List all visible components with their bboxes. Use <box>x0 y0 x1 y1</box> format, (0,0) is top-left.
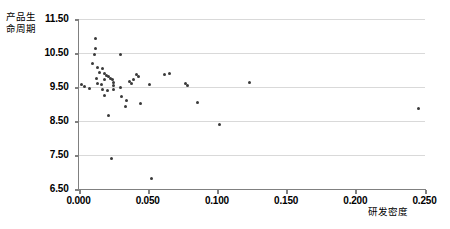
data-point <box>94 47 97 50</box>
y-tick-label: 9.50 <box>33 81 69 92</box>
data-point <box>106 89 109 92</box>
data-point <box>124 105 127 108</box>
y-tick-label: 6.50 <box>33 183 69 194</box>
y-tick-mark <box>75 121 79 123</box>
data-point <box>119 53 122 56</box>
y-axis-title-line-2: 命周期 <box>6 23 66 35</box>
data-point <box>103 78 106 81</box>
data-point <box>98 71 101 74</box>
gridline-y <box>79 155 425 156</box>
x-tick-mark <box>286 190 288 194</box>
data-point <box>96 66 99 69</box>
data-point <box>248 81 251 84</box>
x-tick-mark <box>148 190 150 194</box>
y-tick-label: 8.50 <box>33 115 69 126</box>
y-tick-mark <box>75 155 79 157</box>
x-tick-mark <box>217 190 219 194</box>
data-point <box>130 82 133 85</box>
data-point <box>125 99 128 102</box>
x-tick-mark <box>355 190 357 194</box>
x-tick-label: 0.000 <box>56 195 102 206</box>
data-point <box>218 123 221 126</box>
y-tick-mark <box>75 19 79 21</box>
data-point <box>148 83 151 86</box>
data-point <box>103 94 106 97</box>
data-point <box>150 177 153 180</box>
data-point <box>110 157 113 160</box>
data-point <box>93 53 96 56</box>
data-point <box>137 75 140 78</box>
data-point <box>112 88 115 91</box>
data-point <box>196 101 199 104</box>
gridline-y <box>79 53 425 54</box>
x-tick-mark <box>79 190 81 194</box>
y-axis-line <box>78 19 80 190</box>
data-point <box>94 37 97 40</box>
y-tick-mark <box>75 87 79 89</box>
data-point <box>101 88 104 91</box>
data-point <box>417 107 420 110</box>
data-point <box>163 73 166 76</box>
data-point <box>119 86 122 89</box>
x-tick-label: 0.250 <box>402 195 448 206</box>
y-tick-label: 11.50 <box>33 13 69 24</box>
data-point <box>168 72 171 75</box>
x-axis-line <box>78 189 426 191</box>
gridline-y <box>79 121 425 122</box>
data-point <box>88 87 91 90</box>
scatter-chart: 产品生 命周期 研发密度 11.5010.509.508.507.506.500… <box>0 0 450 229</box>
x-axis-title: 研发密度 <box>368 206 408 218</box>
data-point <box>100 83 103 86</box>
x-tick-label: 0.100 <box>194 195 240 206</box>
gridline-y <box>79 87 425 88</box>
y-tick-mark <box>75 53 79 55</box>
x-tick-label: 0.150 <box>263 195 309 206</box>
data-point <box>95 77 98 80</box>
gridline-y-top <box>79 19 425 20</box>
x-tick-label: 0.050 <box>125 195 171 206</box>
x-tick-label: 0.200 <box>332 195 378 206</box>
data-point <box>107 114 110 117</box>
x-tick-mark <box>425 190 427 194</box>
data-point <box>96 82 99 85</box>
y-tick-label: 7.50 <box>33 149 69 160</box>
data-point <box>132 78 135 81</box>
y-tick-label: 10.50 <box>33 47 69 58</box>
y-tick-mark <box>75 189 79 191</box>
data-point <box>91 62 94 65</box>
data-point <box>120 95 123 98</box>
data-point <box>101 67 104 70</box>
data-point <box>139 102 142 105</box>
